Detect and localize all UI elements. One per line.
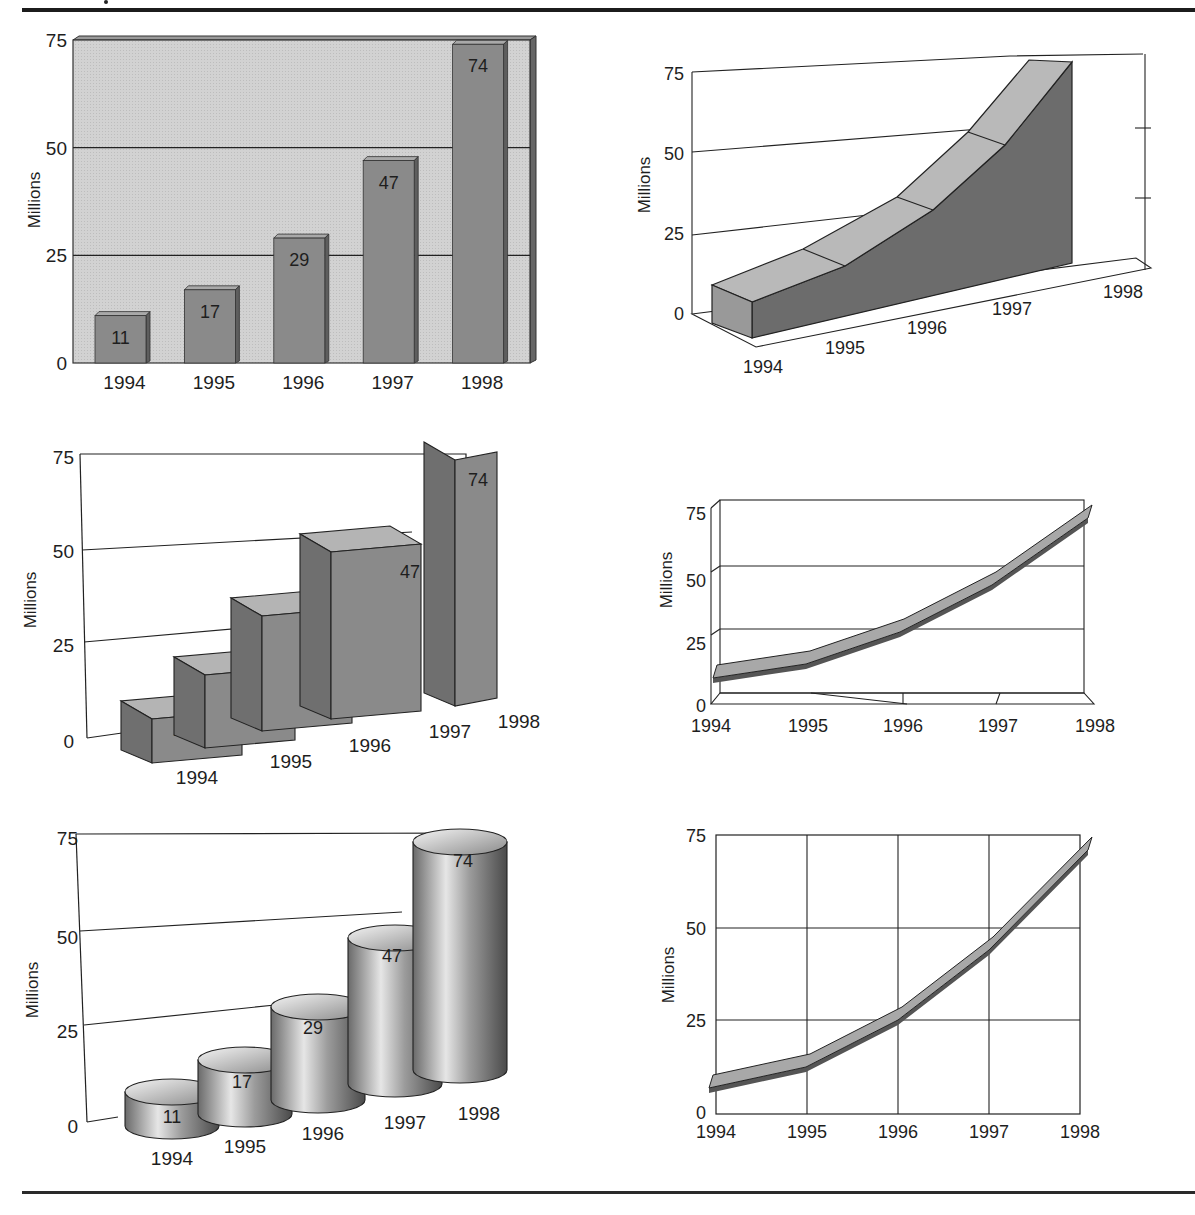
y-tick-label: 75 bbox=[686, 504, 706, 524]
back-wall-top bbox=[692, 54, 1143, 72]
y-tick-label: 50 bbox=[53, 541, 74, 562]
bar-value-label: 11 bbox=[163, 1107, 182, 1127]
y-tick-label: 25 bbox=[686, 1011, 706, 1031]
gridline-stub bbox=[711, 629, 720, 635]
chart-bar-3d-perspective-svg: 0255075Millions1117294774199419951996199… bbox=[0, 430, 560, 800]
y-tick-label: 75 bbox=[664, 64, 684, 84]
x-tick-label: 1998 bbox=[498, 711, 540, 732]
floor-edge bbox=[87, 1117, 118, 1122]
x-tick-label: 1998 bbox=[1060, 1122, 1100, 1142]
ribbon-line bbox=[709, 837, 1092, 1088]
plot-right-edge bbox=[530, 36, 536, 363]
y-tick-label: 25 bbox=[686, 634, 706, 654]
bar-side bbox=[146, 312, 150, 363]
y-tick-label: 50 bbox=[686, 919, 706, 939]
box-side bbox=[424, 442, 455, 706]
x-tick-label: 1994 bbox=[743, 357, 783, 377]
x-tick-label: 1996 bbox=[349, 735, 391, 756]
bar-value-label: 74 bbox=[468, 470, 488, 490]
x-tick-label: 1994 bbox=[103, 372, 146, 393]
box-side bbox=[300, 534, 331, 719]
y-axis-label: Millions bbox=[21, 572, 40, 629]
chart-bar-3d-perspective: 0255075Millions1117294774199419951996199… bbox=[0, 430, 560, 800]
floor-edge bbox=[87, 733, 122, 738]
chart-bar-2d-shadow: 0255075Millions1119941719952919964719977… bbox=[0, 20, 560, 400]
x-tick-label: 1995 bbox=[193, 372, 235, 393]
y-tick-label: 25 bbox=[57, 1021, 78, 1042]
gridline bbox=[84, 1005, 275, 1025]
chart-cylinder-3d-svg: 0255075Millions1117294774199419951996199… bbox=[0, 820, 560, 1180]
gridline bbox=[80, 912, 402, 931]
back-wall-top bbox=[80, 454, 466, 458]
back-wall-top bbox=[76, 833, 460, 838]
y-tick-label: 0 bbox=[67, 1116, 78, 1137]
chart-area-3d-svg: 0255075Millions19941995199619971998 bbox=[600, 40, 1195, 390]
bar-top bbox=[95, 312, 150, 316]
bar-value-label: 29 bbox=[289, 250, 309, 270]
y-axis-label: Millions bbox=[657, 552, 676, 609]
y-tick-label: 75 bbox=[53, 447, 74, 468]
y-tick-label: 75 bbox=[57, 828, 78, 849]
x-tick-label: 1996 bbox=[907, 318, 947, 338]
x-tick-label: 1998 bbox=[1103, 282, 1143, 302]
bar-top bbox=[184, 286, 239, 290]
x-tick-label: 1997 bbox=[429, 721, 471, 742]
chart-line-3d-ribbon-svg: 0255075Millions19941995199619971998 bbox=[620, 480, 1195, 770]
x-tick-label: 1997 bbox=[992, 299, 1032, 319]
x-tick-label: 1998 bbox=[458, 1103, 500, 1124]
chart-area-3d: 0255075Millions19941995199619971998 bbox=[600, 40, 1195, 390]
x-tick-label: 1995 bbox=[224, 1136, 266, 1157]
bar-side bbox=[504, 40, 508, 363]
y-tick-label: 25 bbox=[46, 245, 67, 266]
bar-top bbox=[363, 157, 418, 161]
bar-value-label: 17 bbox=[200, 302, 220, 322]
bar-side bbox=[325, 234, 329, 363]
y-tick-label: 50 bbox=[686, 571, 706, 591]
bar-side bbox=[414, 157, 418, 363]
bottom-rule bbox=[22, 1191, 1195, 1194]
y-axis-label: Millions bbox=[23, 962, 42, 1019]
bar-value-label: 74 bbox=[468, 56, 488, 76]
x-tick-label: 1995 bbox=[825, 338, 865, 358]
x-tick-label: 1994 bbox=[696, 1122, 736, 1142]
chart-line-ribbon-grid: 0255075Millions19941995199619971998 bbox=[620, 820, 1195, 1150]
x-tick-label: 1997 bbox=[969, 1122, 1009, 1142]
top-rule bbox=[22, 8, 1195, 12]
x-tick-label: 1995 bbox=[787, 1122, 827, 1142]
x-tick-label: 1996 bbox=[878, 1122, 918, 1142]
chart-line-ribbon-grid-svg: 0255075Millions19941995199619971998 bbox=[620, 820, 1195, 1150]
x-tick-label: 1996 bbox=[302, 1123, 344, 1144]
x-tick-label: 1994 bbox=[151, 1148, 194, 1169]
x-tick-label: 1995 bbox=[270, 751, 312, 772]
y-tick-label: 25 bbox=[664, 224, 684, 244]
y-tick-label: 75 bbox=[686, 826, 706, 846]
x-tick-label: 1998 bbox=[1075, 716, 1115, 736]
x-tick-label: 1997 bbox=[384, 1112, 426, 1133]
y-tick-label: 0 bbox=[56, 353, 67, 374]
y-tick-label: 50 bbox=[664, 144, 684, 164]
y-axis-label: Millions bbox=[659, 947, 678, 1004]
frame-edge bbox=[711, 500, 720, 508]
ribbon-line bbox=[713, 505, 1092, 678]
y-tick-label: 25 bbox=[53, 635, 74, 656]
box-front bbox=[455, 452, 497, 706]
cropped-heading-fragment bbox=[104, 0, 108, 4]
bar-value-label: 47 bbox=[382, 946, 402, 966]
x-tick-label: 1996 bbox=[282, 372, 324, 393]
bar-top bbox=[453, 40, 508, 44]
x-tick-label: 1994 bbox=[691, 716, 731, 736]
chart-bar-2d-shadow-svg: 0255075Millions1119941719952919964719977… bbox=[0, 20, 560, 400]
y-axis bbox=[80, 454, 87, 738]
bar-value-label: 17 bbox=[232, 1072, 252, 1092]
y-axis-label: Millions bbox=[635, 157, 654, 214]
y-tick-label: 75 bbox=[46, 30, 67, 51]
bar bbox=[184, 290, 235, 363]
x-tick-label: 1996 bbox=[883, 716, 923, 736]
x-tick-label: 1997 bbox=[978, 716, 1018, 736]
floor-divider bbox=[811, 693, 907, 704]
bar-side bbox=[235, 286, 239, 363]
y-tick-label: 50 bbox=[57, 927, 78, 948]
y-tick-label: 0 bbox=[696, 1103, 706, 1123]
bar-value-label: 47 bbox=[400, 562, 420, 582]
box-side bbox=[231, 598, 262, 731]
